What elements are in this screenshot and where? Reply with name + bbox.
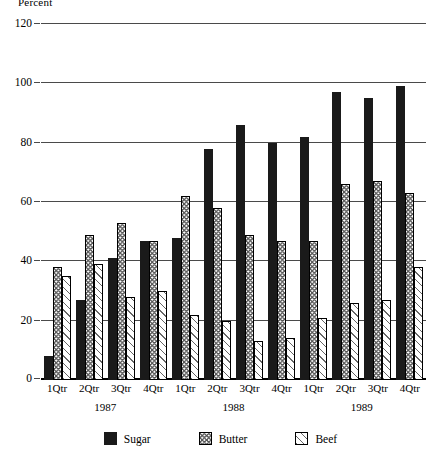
y-axis-tick-mark bbox=[34, 82, 40, 83]
y-axis-tick-label: 80 bbox=[21, 136, 33, 148]
x-axis-tick-labels: 1Qtr2Qtr3Qtr4Qtr1Qtr2Qtr3Qtr4Qtr1Qtr2Qtr… bbox=[41, 382, 426, 394]
legend-item-sugar[interactable]: Sugar bbox=[104, 432, 151, 445]
bar-beef bbox=[286, 338, 295, 380]
year-label: 1988 bbox=[169, 401, 297, 413]
bar-beef bbox=[126, 297, 135, 380]
bar-beef bbox=[190, 315, 199, 380]
plot-area: 020406080100120 bbox=[41, 24, 426, 380]
bar-group bbox=[330, 24, 362, 380]
bar-sugar bbox=[108, 258, 117, 380]
legend-item-beef[interactable]: Beef bbox=[295, 432, 337, 445]
bar-butter bbox=[149, 241, 158, 380]
bar-group bbox=[298, 24, 330, 380]
x-axis-tick-label: 2Qtr bbox=[201, 382, 233, 394]
y-axis-tick-label: 100 bbox=[15, 76, 32, 88]
bar-sugar bbox=[300, 137, 309, 380]
x-axis-tick-label: 3Qtr bbox=[105, 382, 137, 394]
y-axis-tick-label: 60 bbox=[21, 195, 33, 207]
legend-label: Sugar bbox=[124, 433, 151, 445]
bar-group bbox=[73, 24, 105, 380]
x-axis-tick-label: 4Qtr bbox=[137, 382, 169, 394]
y-axis-tick-mark bbox=[34, 201, 40, 202]
legend-label: Beef bbox=[315, 433, 337, 445]
x-axis-tick-label: 1Qtr bbox=[298, 382, 330, 394]
y-axis-tick-label: 20 bbox=[21, 314, 33, 326]
bar-beef bbox=[62, 276, 71, 380]
x-axis-tick-label: 1Qtr bbox=[41, 382, 73, 394]
bar-butter bbox=[341, 184, 350, 380]
bar-group bbox=[266, 24, 298, 380]
y-axis-tick-label: 120 bbox=[15, 17, 32, 29]
bar-group bbox=[394, 24, 426, 380]
bar-groups bbox=[41, 24, 426, 380]
bar-sugar bbox=[204, 149, 213, 380]
bar-butter bbox=[309, 241, 318, 380]
bar-beef bbox=[158, 291, 167, 380]
x-axis-tick-label: 1Qtr bbox=[169, 382, 201, 394]
bar-butter bbox=[277, 241, 286, 380]
bar-sugar bbox=[268, 143, 277, 380]
bar-butter bbox=[181, 196, 190, 380]
bar-sugar bbox=[332, 92, 341, 380]
x-axis-tick-label: 2Qtr bbox=[73, 382, 105, 394]
legend-label: Butter bbox=[219, 433, 248, 445]
bar-chart: Percent 020406080100120 1Qtr2Qtr3Qtr4Qtr… bbox=[0, 0, 441, 459]
bar-beef bbox=[382, 300, 391, 380]
legend-swatch-sugar-icon bbox=[104, 432, 117, 445]
x-axis-group-labels: 198719881989 bbox=[41, 401, 426, 413]
bar-sugar bbox=[76, 300, 85, 380]
bar-sugar bbox=[236, 125, 245, 380]
bar-group bbox=[169, 24, 201, 380]
bar-beef bbox=[94, 264, 103, 380]
y-axis-tick-mark bbox=[34, 142, 40, 143]
legend-item-butter[interactable]: Butter bbox=[199, 432, 248, 445]
bar-sugar bbox=[172, 238, 181, 380]
chart-legend: SugarButterBeef bbox=[0, 432, 441, 445]
bar-beef bbox=[414, 267, 423, 380]
bar-group bbox=[233, 24, 265, 380]
y-axis-tick-mark bbox=[34, 378, 40, 379]
bar-group bbox=[137, 24, 169, 380]
year-label: 1989 bbox=[298, 401, 426, 413]
y-axis-tick-label: 40 bbox=[21, 254, 33, 266]
y-axis-tick-mark bbox=[34, 260, 40, 261]
y-axis-tick-mark bbox=[34, 23, 40, 24]
bar-group bbox=[41, 24, 73, 380]
bar-group bbox=[105, 24, 137, 380]
y-axis-tick-label: 0 bbox=[26, 372, 32, 384]
bar-butter bbox=[245, 235, 254, 380]
y-axis-tick-mark bbox=[34, 320, 40, 321]
x-axis-tick-label: 3Qtr bbox=[233, 382, 265, 394]
bar-sugar bbox=[364, 98, 373, 380]
bar-sugar bbox=[396, 86, 405, 380]
year-label: 1987 bbox=[41, 401, 169, 413]
x-axis-tick-label: 3Qtr bbox=[362, 382, 394, 394]
legend-swatch-butter-icon bbox=[199, 432, 212, 445]
bar-butter bbox=[53, 267, 62, 380]
bar-sugar bbox=[140, 241, 149, 380]
bar-beef bbox=[318, 318, 327, 380]
bar-beef bbox=[350, 303, 359, 380]
x-axis-tick-label: 4Qtr bbox=[266, 382, 298, 394]
x-axis-tick-label: 4Qtr bbox=[394, 382, 426, 394]
bar-butter bbox=[405, 193, 414, 380]
bar-beef bbox=[254, 341, 263, 380]
bar-group bbox=[201, 24, 233, 380]
bar-butter bbox=[213, 208, 222, 380]
bar-butter bbox=[85, 235, 94, 380]
legend-swatch-beef-icon bbox=[295, 432, 308, 445]
bar-group bbox=[362, 24, 394, 380]
y-axis-title: Percent bbox=[18, 0, 52, 8]
bar-beef bbox=[222, 321, 231, 380]
bar-sugar bbox=[44, 356, 53, 380]
bar-butter bbox=[117, 223, 126, 380]
x-axis-tick-label: 2Qtr bbox=[330, 382, 362, 394]
bar-butter bbox=[373, 181, 382, 380]
